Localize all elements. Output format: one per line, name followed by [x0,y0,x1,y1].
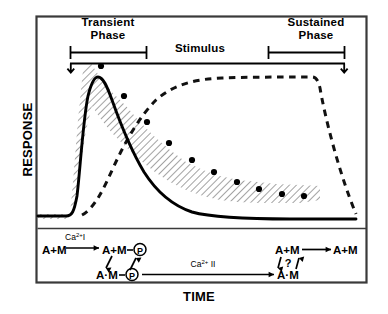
stimulus-bracket [67,64,347,73]
scheme-ca-two-label: Ca2+ II [191,259,216,269]
scheme-right-bottom: A·M [277,269,299,281]
phosphate-label: P [129,271,135,281]
data-point [256,186,262,192]
scheme-right-top-left: A+M [275,244,300,256]
transient-phase-line2: Phase [60,29,156,42]
scheme-arrow-down-left [106,256,112,268]
stimulus-label: Stimulus [155,42,245,54]
transient-phase-label: Transient Phase [60,16,156,41]
data-point [189,157,195,163]
data-point [166,140,172,146]
phosphate-label: P [137,246,143,256]
sustained-phase-line2: Phase [268,29,364,42]
sustained-phase-bracket [268,46,345,59]
plot-frame [37,17,367,283]
scheme-right-top-right: A+M [333,244,358,256]
scheme-left-reactant: A+M [42,244,67,256]
sustained-phase-line1: Sustained [268,16,364,29]
sustained-phase-label: Sustained Phase [268,16,364,41]
uncertainty-band [38,62,320,219]
reaction-scheme: A+M Ca2+I A+M P A·M P Ca2+ II A+M A+M ? … [38,229,367,282]
scheme-arrow-up-right [296,258,299,269]
scheme-left-product: A+M [102,244,127,256]
data-point [121,93,127,99]
transient-phase-bracket [70,46,147,59]
y-axis-label: RESPONSE [20,95,35,185]
data-point [144,119,150,125]
data-point [211,169,217,175]
scheme-question-mark: ? [285,257,292,269]
scheme-arrow-down-right [278,257,281,268]
data-point [234,179,240,185]
x-axis-label: TIME [139,289,259,304]
data-point [279,191,285,197]
scheme-bound-phospho: A·M [96,269,118,281]
transient-phase-line1: Transient [60,16,156,29]
scheme-ca-one-label: Ca2+I [65,232,85,242]
data-point [301,193,307,199]
